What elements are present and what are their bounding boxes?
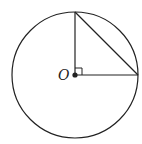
center-label: O [58,67,70,83]
center-point [72,72,77,77]
chord [75,12,138,75]
geometry-diagram: O [0,0,142,144]
